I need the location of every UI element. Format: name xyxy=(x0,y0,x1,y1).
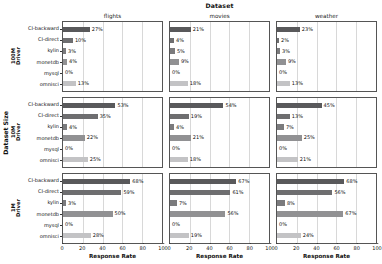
bar-value-label: 35% xyxy=(100,114,111,119)
panel-flights-10m-driver: 53%35%4%22%0%25% xyxy=(62,97,163,168)
bar-ci-backward xyxy=(277,27,300,32)
bar-row-kylin: 7% xyxy=(277,124,376,129)
bar-group: 21%4%5%9%0%18% xyxy=(170,22,269,91)
bar-row-ci-direct: 13% xyxy=(277,114,376,119)
row-facet-label: 10M Driver xyxy=(11,123,22,141)
bar-kylin xyxy=(277,124,284,129)
bar-monetdb xyxy=(277,135,302,140)
bar-ci-backward xyxy=(277,103,322,108)
bar-value-label: 19% xyxy=(191,114,202,119)
gridline xyxy=(376,98,377,167)
y-tick-label-omnisci: omnisci xyxy=(22,234,62,239)
bar-value-label: 23% xyxy=(302,27,313,32)
bar-value-label: 68% xyxy=(346,179,357,184)
bar-omnisci xyxy=(277,233,301,238)
col-facet-label: movies xyxy=(209,13,229,19)
bar-row-kylin: 5% xyxy=(170,48,269,53)
x-axis-movies: 020406080100Response Rate xyxy=(169,244,270,264)
bar-value-label: 2% xyxy=(281,38,289,43)
bar-row-ci-backward: 68% xyxy=(63,179,162,184)
bar-monetdb xyxy=(63,135,85,140)
bar-ci-backward xyxy=(63,103,115,108)
bar-row-ci-backward: 67% xyxy=(170,179,269,184)
gridline xyxy=(269,174,270,243)
gridline xyxy=(162,22,163,91)
col-facet-label: flights xyxy=(104,13,121,19)
bar-row-omnisci: 25% xyxy=(63,157,162,162)
bar-value-label: 27% xyxy=(92,27,103,32)
dataset-title-text: Dataset xyxy=(206,2,234,9)
bar-value-label: 25% xyxy=(90,157,101,162)
y-tick-label-ci-backward: CI-backward xyxy=(22,178,62,183)
bar-monetdb xyxy=(170,211,225,216)
row-facet-title-10m: 10M Driver xyxy=(11,97,22,168)
panel-movies-10m-driver: 54%19%4%21%0%18% xyxy=(169,97,270,168)
row-facet-title-100m: 100M Driver xyxy=(11,21,22,92)
bar-kylin xyxy=(277,200,285,205)
column-facet-titles: flights movies weather xyxy=(62,11,377,21)
bar-row-monetdb: 21% xyxy=(170,135,269,140)
bar-ci-direct xyxy=(170,114,189,119)
bar-value-label: 13% xyxy=(78,81,89,86)
bar-row-monetdb: 56% xyxy=(170,211,269,216)
bar-monetdb xyxy=(63,211,113,216)
y-axis-tick-labels: CI-backwardCI-directkylinmonetdbmysqlomn… xyxy=(22,21,62,244)
y-tick-block: CI-backwardCI-directkylinmonetdbmysqlomn… xyxy=(22,173,62,244)
bar-value-label: 18% xyxy=(190,81,201,86)
y-tick-block: CI-backwardCI-directkylinmonetdbmysqlomn… xyxy=(22,21,62,92)
x-tick-label-60: 60 xyxy=(226,244,232,251)
x-tick-label-80: 80 xyxy=(354,244,360,251)
bar-row-ci-direct: 35% xyxy=(63,114,162,119)
panel-movies-1m-driver: 67%61%7%56%0%19% xyxy=(169,173,270,244)
bar-value-label: 4% xyxy=(69,125,77,130)
bar-row-kylin: 3% xyxy=(63,200,162,205)
gridline xyxy=(269,98,270,167)
bar-value-label: 45% xyxy=(324,103,335,108)
bar-value-label: 3% xyxy=(68,49,76,54)
panel-weather-10m-driver: 45%13%7%25%0%21% xyxy=(276,97,377,168)
panel-grid: 27%10%3%4%0%13%21%4%5%9%0%18%23%2%3%9%0%… xyxy=(62,21,377,244)
bar-ci-direct xyxy=(63,114,98,119)
bar-ci-direct xyxy=(63,38,73,43)
y-tick-block: CI-backwardCI-directkylinmonetdbmysqlomn… xyxy=(22,97,62,168)
bar-ci-backward xyxy=(170,27,191,32)
bar-group: 54%19%4%21%0%18% xyxy=(170,98,269,167)
dataset-size-title-text: Dataset Size xyxy=(2,111,9,155)
bar-value-label: 67% xyxy=(238,179,249,184)
bar-value-label: 68% xyxy=(132,179,143,184)
bar-row-ci-backward: 23% xyxy=(277,27,376,32)
bar-value-label: 8% xyxy=(287,201,295,206)
bar-row-omnisci: 13% xyxy=(63,81,162,86)
bar-value-label: 13% xyxy=(292,81,303,86)
x-axis-weather: 020406080100Response Rate xyxy=(276,244,377,264)
x-tick-row: 020406080100 xyxy=(62,244,163,252)
bar-value-label: 25% xyxy=(304,135,315,140)
bar-value-label: 13% xyxy=(292,114,303,119)
bar-value-label: 3% xyxy=(68,201,76,206)
bar-value-label: 67% xyxy=(345,211,356,216)
x-tick-label-100: 100 xyxy=(372,244,382,251)
bar-value-label: 18% xyxy=(190,157,201,162)
bar-row-omnisci: 13% xyxy=(277,81,376,86)
bar-value-label: 7% xyxy=(286,125,294,130)
y-tick-label-monetdb: monetdb xyxy=(22,60,62,65)
bar-row-omnisci: 21% xyxy=(277,157,376,162)
bar-value-label: 56% xyxy=(227,211,238,216)
bar-omnisci xyxy=(277,81,290,86)
bar-omnisci xyxy=(170,157,188,162)
bar-value-label: 0% xyxy=(65,222,73,227)
x-tick-label-100: 100 xyxy=(158,244,168,251)
bar-ci-direct xyxy=(277,38,279,43)
bar-omnisci xyxy=(170,233,189,238)
bar-value-label: 10% xyxy=(75,38,86,43)
bar-value-label: 4% xyxy=(176,38,184,43)
x-tick-label-40: 40 xyxy=(313,244,319,251)
bar-value-label: 0% xyxy=(279,146,287,151)
bar-kylin xyxy=(170,124,174,129)
bar-row-ci-direct: 19% xyxy=(170,114,269,119)
y-tick-label-ci-direct: CI-direct xyxy=(22,37,62,42)
bar-value-label: 53% xyxy=(117,103,128,108)
column-facet-super-title: Dataset xyxy=(62,0,377,11)
bar-kylin xyxy=(170,48,175,53)
bar-ci-direct xyxy=(277,114,290,119)
